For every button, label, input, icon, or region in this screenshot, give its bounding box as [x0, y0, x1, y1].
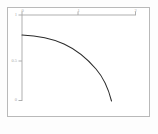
chart-svg	[8, 8, 151, 118]
figure-canvas: 0 1 2 1 0.5 0	[0, 0, 158, 134]
data-curve	[22, 35, 112, 101]
y-tick-label-mid: 0.5	[8, 59, 17, 64]
plot-frame: 0 1 2 1 0.5 0	[7, 7, 150, 117]
x-tick-label-2: 2	[131, 9, 140, 14]
y-tick-label-top: 1	[8, 13, 17, 18]
x-tick-label-1: 1	[74, 9, 83, 14]
y-tick-label-bottom: 0	[8, 98, 17, 103]
plot-area: 0 1 2 1 0.5 0	[8, 8, 149, 116]
x-tick-label-0: 0	[18, 9, 27, 14]
